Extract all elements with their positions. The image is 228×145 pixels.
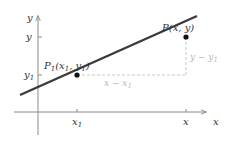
point-p1-label: P1(x1, y1) xyxy=(43,60,90,73)
coordinate-diagram: y x y y1 x1 x P1(x1, y1) P(x, y) x − x1 … xyxy=(0,0,228,145)
y-axis-label: y xyxy=(26,12,33,23)
x-tick-label-x1: x1 xyxy=(72,116,82,129)
point-p xyxy=(183,34,188,39)
x-axis-label: x xyxy=(213,116,219,127)
point-p-label: P(x, y) xyxy=(161,22,194,33)
y-tick-label-y1: y1 xyxy=(23,69,34,82)
y-tick-label-y: y xyxy=(25,31,32,42)
x-tick-label-x: x xyxy=(183,116,189,127)
vertical-leg-label: y − y1 xyxy=(189,52,218,64)
point-p1 xyxy=(74,72,79,77)
horizontal-leg-label: x − x1 xyxy=(104,78,132,90)
